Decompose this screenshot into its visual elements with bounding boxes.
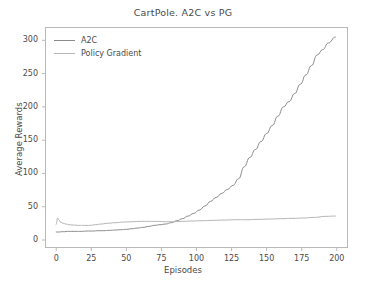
legend-item-policy-gradient[interactable]: Policy Gradient (54, 47, 141, 60)
x-tick-label: 125 (217, 254, 247, 263)
y-tick-label: 200 (8, 102, 38, 111)
y-tick-label: 250 (8, 69, 38, 78)
chart-figure: CartPole. A2C vs PG Average Rewards Epis… (0, 0, 366, 292)
legend-item-a2c[interactable]: A2C (54, 34, 141, 47)
y-tick-label: 300 (8, 35, 38, 44)
y-tick-label: 50 (8, 202, 38, 211)
x-tick-label: 150 (252, 254, 282, 263)
legend-label-policy-gradient: Policy Gradient (81, 49, 141, 58)
data-series-group (56, 37, 335, 232)
x-tick-label: 50 (111, 254, 141, 263)
y-tick-label: 150 (8, 135, 38, 144)
x-tick-label: 200 (322, 254, 352, 263)
legend-label-a2c: A2C (81, 36, 97, 45)
x-tick-label: 175 (287, 254, 317, 263)
legend-swatch-a2c (54, 40, 75, 41)
series-line-policy-gradient (56, 216, 335, 225)
chart-legend: A2C Policy Gradient (52, 32, 145, 62)
x-tick-label: 25 (76, 254, 106, 263)
series-line-a2c (56, 37, 335, 232)
y-tick-label: 0 (8, 235, 38, 244)
x-tick-label: 100 (182, 254, 212, 263)
axis-ticks (42, 40, 337, 251)
x-axis-label: Episodes (0, 265, 366, 275)
x-tick-label: 75 (146, 254, 176, 263)
y-tick-label: 100 (8, 168, 38, 177)
legend-swatch-policy-gradient (54, 53, 75, 54)
x-tick-label: 0 (41, 254, 71, 263)
